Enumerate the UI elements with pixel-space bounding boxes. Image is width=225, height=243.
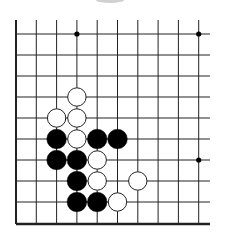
star-point	[196, 31, 201, 36]
star-point	[196, 157, 201, 162]
black-stone	[87, 129, 107, 149]
black-stone	[47, 150, 67, 170]
white-stone	[88, 172, 106, 190]
white-stone	[68, 109, 86, 127]
white-stone	[68, 130, 86, 148]
black-stone	[67, 150, 87, 170]
black-stone	[47, 129, 67, 149]
top-smudge	[96, 0, 124, 3]
white-stone	[129, 172, 147, 190]
white-stone	[108, 193, 126, 211]
star-point	[74, 31, 79, 36]
go-board	[0, 0, 225, 243]
black-stone	[87, 192, 107, 212]
white-stone	[47, 109, 65, 127]
black-stone	[108, 129, 128, 149]
black-stone	[67, 171, 87, 191]
black-stone	[67, 192, 87, 212]
board-grid	[16, 20, 210, 224]
white-stone	[88, 151, 106, 169]
white-stone	[68, 88, 86, 106]
